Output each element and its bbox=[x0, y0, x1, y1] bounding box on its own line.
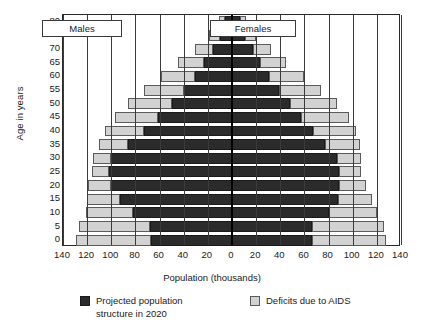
bar-segment-male-projected bbox=[111, 153, 232, 164]
y-axis-tick: 20 bbox=[36, 180, 60, 190]
legend-item-deficits: Deficits due to AIDS bbox=[250, 295, 350, 308]
bar-segment-male-projected bbox=[128, 139, 232, 150]
y-axis-tick: 0 bbox=[36, 234, 60, 244]
y-axis-tick: 60 bbox=[36, 70, 60, 80]
bar-segment-female-deficit bbox=[269, 71, 304, 82]
legend-swatch-deficits-icon bbox=[250, 296, 260, 306]
bar-segment-female-deficit bbox=[339, 166, 361, 177]
bar-segment-male-projected bbox=[195, 71, 232, 82]
bar-segment-male-deficit bbox=[178, 57, 205, 68]
bar-segment-female-deficit bbox=[301, 112, 349, 123]
bar-segment-female-deficit bbox=[260, 57, 287, 68]
bar-segment-female-projected bbox=[232, 194, 338, 205]
legend-swatch-projected-icon bbox=[80, 296, 90, 306]
bar-segment-female-deficit bbox=[338, 194, 372, 205]
bar-segment-male-projected bbox=[151, 235, 232, 246]
bar-segment-female-projected bbox=[232, 221, 312, 232]
bar-segment-female-projected bbox=[232, 153, 337, 164]
bar-segment-male-deficit bbox=[99, 139, 128, 150]
gridline bbox=[329, 15, 330, 245]
females-label: Females bbox=[210, 20, 296, 37]
center-axis-line bbox=[231, 15, 233, 245]
bar-segment-male-deficit bbox=[144, 85, 184, 96]
legend-label-projected: Projected population structure in 2020 bbox=[96, 295, 183, 320]
bar-segment-female-deficit bbox=[325, 139, 360, 150]
bar-segment-male-deficit bbox=[88, 180, 111, 191]
bar-segment-female-deficit bbox=[337, 153, 361, 164]
bar-segment-female-projected bbox=[232, 126, 313, 137]
bar-segment-male-deficit bbox=[86, 207, 133, 218]
bar-segment-female-projected bbox=[232, 112, 301, 123]
legend-item-projected: Projected population structure in 2020 bbox=[80, 295, 183, 320]
bar-segment-female-deficit bbox=[290, 98, 337, 109]
y-axis-tick: 50 bbox=[36, 98, 60, 108]
bar-segment-female-projected bbox=[232, 44, 253, 55]
bar-segment-female-projected bbox=[232, 180, 339, 191]
gridline bbox=[304, 15, 305, 245]
gridline bbox=[160, 15, 161, 245]
legend-label-deficits: Deficits due to AIDS bbox=[266, 295, 350, 308]
y-axis-tick: 70 bbox=[36, 43, 60, 53]
gridline bbox=[256, 15, 257, 245]
gridline bbox=[111, 15, 112, 245]
gridline bbox=[208, 15, 209, 245]
y-axis-tick: 40 bbox=[36, 125, 60, 135]
bar-segment-male-projected bbox=[109, 166, 232, 177]
gridline bbox=[87, 15, 88, 245]
bar-segment-male-projected bbox=[111, 180, 232, 191]
population-pyramid-chart: Age in years 051015202530354045505560657… bbox=[0, 0, 424, 335]
bar-segment-female-projected bbox=[232, 166, 339, 177]
bar-segment-male-deficit bbox=[87, 194, 120, 205]
x-axis-tick-labels: 14012010080604020020406080100120140 bbox=[62, 249, 400, 263]
legend: Projected population structure in 2020 D… bbox=[0, 295, 424, 329]
bar-segment-female-projected bbox=[232, 139, 325, 150]
bar-segment-female-deficit bbox=[313, 126, 356, 137]
bar-segment-male-projected bbox=[144, 126, 232, 137]
gridline bbox=[401, 15, 402, 245]
bar-segment-female-projected bbox=[232, 235, 312, 246]
y-axis-tick: 30 bbox=[36, 152, 60, 162]
bar-segment-male-deficit bbox=[79, 221, 150, 232]
y-axis-title: Age in years bbox=[14, 69, 25, 159]
plot-area bbox=[62, 14, 400, 246]
bar-segment-male-deficit bbox=[115, 112, 158, 123]
bar-segment-male-deficit bbox=[195, 44, 213, 55]
bar-segment-male-deficit bbox=[161, 71, 195, 82]
y-axis-tick: 45 bbox=[36, 111, 60, 121]
y-axis-tick-labels: 05101520253035404550556065707580 bbox=[30, 14, 60, 246]
gridline bbox=[280, 15, 281, 245]
bar-segment-male-projected bbox=[172, 98, 232, 109]
x-axis-tick: 140 bbox=[385, 249, 415, 260]
bar-segment-male-deficit bbox=[92, 166, 109, 177]
bar-segment-female-deficit bbox=[312, 221, 384, 232]
males-label: Males bbox=[42, 20, 122, 37]
gridline bbox=[353, 15, 354, 245]
x-axis-title: Population (thousands) bbox=[0, 272, 424, 283]
bar-segment-female-deficit bbox=[312, 235, 387, 246]
y-axis-tick: 35 bbox=[36, 139, 60, 149]
y-axis-tick: 55 bbox=[36, 84, 60, 94]
bar-segment-male-projected bbox=[213, 44, 232, 55]
gridline bbox=[63, 15, 64, 245]
y-axis-tick: 15 bbox=[36, 193, 60, 203]
bar-segment-male-projected bbox=[150, 221, 232, 232]
bar-segment-male-deficit bbox=[93, 153, 111, 164]
gridline bbox=[184, 15, 185, 245]
bar-segment-female-projected bbox=[232, 71, 269, 82]
y-axis-tick: 5 bbox=[36, 221, 60, 231]
bar-segment-male-projected bbox=[133, 207, 232, 218]
bar-segment-female-deficit bbox=[279, 85, 321, 96]
y-axis-tick: 65 bbox=[36, 57, 60, 67]
y-axis-tick: 25 bbox=[36, 166, 60, 176]
bar-segment-male-projected bbox=[158, 112, 232, 123]
y-axis-tick: 10 bbox=[36, 207, 60, 217]
gridline bbox=[377, 15, 378, 245]
bar-segment-male-projected bbox=[120, 194, 232, 205]
gridline bbox=[135, 15, 136, 245]
